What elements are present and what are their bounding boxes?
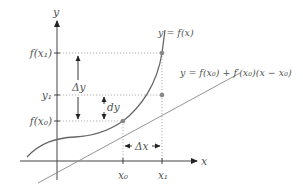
linear-approximation-diagram: y x f(x₁) y₁ f(x₀) x₀ x₁ y = f(x) y = f(… xyxy=(0,0,303,191)
tangent-label: y = f(x₀) + f′(x₀)(x − x₀) xyxy=(179,67,292,78)
point-x0-fx0 xyxy=(121,119,126,124)
delta-x-label: Δx xyxy=(134,140,149,152)
tangent-line xyxy=(38,73,240,183)
x-tick-label-x1: x₁ xyxy=(158,169,168,181)
delta-y-label: Δy xyxy=(71,81,87,93)
point-x1-fx1 xyxy=(160,51,165,56)
point-x1-y1 xyxy=(160,93,165,98)
curve-label: y = f(x) xyxy=(157,27,194,38)
y-tick-label-y1: y₁ xyxy=(41,89,52,101)
y-axis-label: y xyxy=(52,6,60,19)
dy-label: dy xyxy=(107,101,121,113)
x-tick-label-x0: x₀ xyxy=(118,169,129,181)
x-axis-label: x xyxy=(201,155,208,168)
y-tick-label-fx1: f(x₁) xyxy=(29,47,52,59)
y-tick-label-fx0: f(x₀) xyxy=(29,115,52,127)
